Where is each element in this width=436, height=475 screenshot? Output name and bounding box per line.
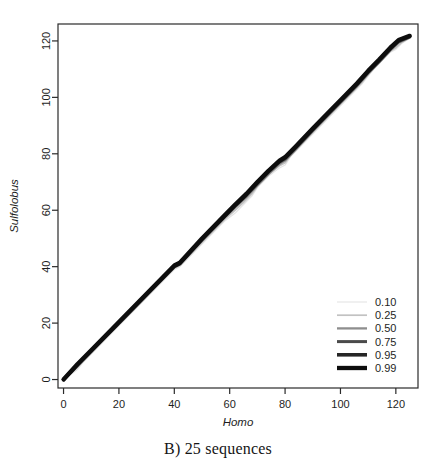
y-tick-label: 120: [40, 32, 52, 50]
y-tick-label: 20: [40, 317, 52, 329]
y-tick-label: 40: [40, 261, 52, 273]
legend-label-0.99: 0.99: [375, 362, 396, 374]
legend-label-0.50: 0.50: [375, 322, 396, 334]
quantile-plot: 020406080100120 020406080100120 Homo Sul…: [0, 0, 436, 440]
legend-label-0.25: 0.25: [375, 309, 396, 321]
x-tick-label: 20: [113, 398, 125, 410]
legend-label-0.75: 0.75: [375, 336, 396, 348]
y-tick-label: 100: [40, 88, 52, 106]
x-tick-label: 100: [331, 398, 349, 410]
figure-caption: B) 25 sequences: [0, 440, 436, 458]
y-axis: 020406080100120: [40, 32, 58, 383]
figure-panel: 020406080100120 020406080100120 Homo Sul…: [0, 0, 436, 475]
x-tick-label: 80: [279, 398, 291, 410]
x-tick-label: 40: [168, 398, 180, 410]
y-tick-label: 60: [40, 204, 52, 216]
y-tick-label: 80: [40, 148, 52, 160]
x-tick-label: 0: [60, 398, 66, 410]
y-tick-label: 0: [40, 376, 52, 382]
x-tick-label: 60: [224, 398, 236, 410]
x-axis: 020406080100120: [60, 388, 405, 410]
y-axis-title: Sulfolobus: [8, 179, 20, 233]
legend-label-0.95: 0.95: [375, 349, 396, 361]
legend-label-0.10: 0.10: [375, 296, 396, 308]
x-tick-label: 120: [387, 398, 405, 410]
x-axis-title: Homo: [223, 416, 254, 428]
